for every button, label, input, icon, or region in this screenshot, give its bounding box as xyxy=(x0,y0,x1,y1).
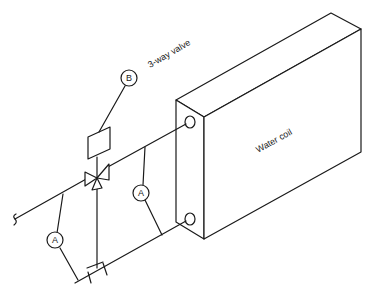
tag-b-text: B xyxy=(126,73,132,83)
tag-a-right-text: A xyxy=(138,188,144,198)
valve-label: 3-way valve xyxy=(146,37,192,69)
pipe-end-break-icon xyxy=(14,214,17,225)
sensor-left: A xyxy=(47,194,78,280)
inlet-pipe xyxy=(15,178,88,219)
valve-right-triangle xyxy=(97,164,109,180)
sensor-left-leader-top xyxy=(57,194,63,233)
bypass-break-mark xyxy=(87,262,103,268)
sensor-left-leader-bottom xyxy=(60,248,78,280)
tag-a-left-text: A xyxy=(52,235,58,245)
water-coil: Water coil xyxy=(176,13,361,239)
diagram-canvas: Water coil B 3-way valve A xyxy=(0,0,378,284)
coil-upper-port xyxy=(185,116,195,128)
sensor-right-leader-top xyxy=(143,147,145,185)
return-pipe xyxy=(75,221,186,283)
sensor-right: A xyxy=(133,147,162,235)
supply-pipe xyxy=(106,124,186,168)
coil-lower-port xyxy=(185,213,195,225)
actuator-leader xyxy=(99,86,125,132)
sensor-right-leader-bottom xyxy=(145,200,162,235)
